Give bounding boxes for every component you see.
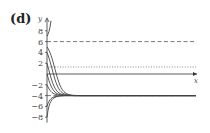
solution-curve bbox=[47, 47, 196, 96]
solution-curves-chart: yx8642−2−4−6−8 bbox=[0, 0, 210, 133]
x-axis-arrow-icon bbox=[193, 72, 197, 76]
solution-curve bbox=[47, 63, 196, 95]
y-tick-label: −2 bbox=[31, 81, 43, 90]
solution-curve bbox=[47, 85, 196, 96]
y-axis-label: y bbox=[37, 15, 43, 23]
solution-curve bbox=[47, 96, 196, 107]
solution-curve bbox=[47, 96, 196, 118]
y-tick-label: 6 bbox=[38, 38, 43, 47]
x-axis-label: x bbox=[194, 77, 198, 85]
y-tick-label: 8 bbox=[38, 27, 43, 36]
y-tick-label: −8 bbox=[31, 113, 43, 122]
solution-curve bbox=[47, 21, 51, 37]
y-tick-label: 4 bbox=[38, 48, 43, 57]
solution-curve bbox=[47, 74, 196, 96]
y-tick-label: −6 bbox=[31, 102, 43, 111]
y-tick-label: 2 bbox=[38, 59, 43, 68]
y-tick-label: −4 bbox=[31, 92, 43, 101]
